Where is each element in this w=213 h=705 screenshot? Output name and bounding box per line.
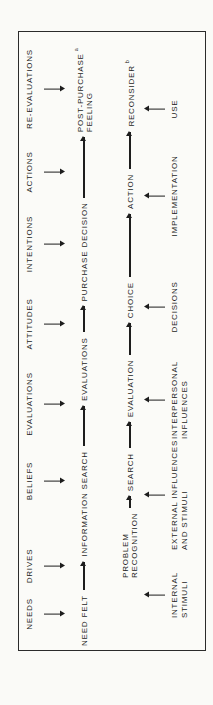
stage-label: DRIVES: [25, 549, 34, 584]
down-arrow-icon: [44, 88, 61, 89]
influence-label: IMPLEMENTATION: [170, 155, 179, 236]
stage-label: RE-EVALUATIONS: [25, 49, 34, 129]
flow-stage: RECONSIDERb: [125, 60, 136, 127]
right-arrow-icon: [83, 406, 84, 446]
up-arrow-icon: [148, 306, 165, 307]
influence-label-line: INFLUENCES: [180, 361, 190, 439]
stage-label-text: ACTIONS: [25, 151, 34, 192]
flow-stage: POST-PURCHASEaFEELING: [73, 48, 95, 132]
flow-stage-text: EVALUATIONS: [80, 337, 89, 401]
right-arrow-icon: [129, 214, 130, 277]
flow-stage-line: FEELING: [85, 48, 95, 132]
up-arrow-icon: [148, 399, 165, 400]
flow-stage: CHOICE: [126, 282, 135, 318]
flow-stage-text: INFORMATION SEARCH: [80, 451, 89, 556]
flow-stage-text: EVALUATION: [126, 360, 135, 418]
flow-stage-text: ACTION: [126, 174, 135, 209]
flow-stage: PURCHASE DECISION: [80, 203, 89, 302]
up-arrow-icon: [148, 195, 165, 196]
flow-stage-text: POST-PURCHASE: [76, 53, 85, 132]
stage-label-text: BELIEFS: [25, 462, 34, 501]
influence-label: DECISIONS: [170, 281, 179, 332]
influence-label-line: STIMULI: [180, 572, 190, 618]
stage-label: EVALUATIONS: [25, 372, 34, 436]
flow-stage: ACTION: [126, 174, 135, 209]
flow-stage: EVALUATIONS: [80, 337, 89, 401]
flow-stage-text: PURCHASE DECISION: [80, 203, 89, 302]
stage-label: INTENTIONS: [25, 216, 34, 272]
right-arrow-icon: [129, 422, 130, 448]
stage-label-text: DRIVES: [25, 549, 34, 584]
right-arrow-icon: [129, 132, 130, 169]
right-arrow-icon: [83, 562, 84, 591]
flow-stage-text: SEARCH: [126, 453, 135, 491]
influence-label-line: AND STIMULI: [180, 440, 190, 550]
down-arrow-icon: [44, 613, 61, 614]
flow-stage: PROBLEMRECOGNITION: [121, 513, 140, 578]
influence-label-text: INTERNAL: [170, 572, 179, 618]
influence-label: INTERNALSTIMULI: [170, 572, 189, 618]
right-arrow-icon: [83, 306, 84, 332]
up-arrow-icon: [148, 494, 165, 495]
flow-stage-line: PROBLEM: [121, 513, 131, 578]
influence-label-text: STIMULI: [180, 581, 189, 618]
flow-stage-text: RECOGNITION: [130, 513, 139, 578]
footnote-marker: a: [73, 48, 79, 51]
down-arrow-icon: [44, 403, 61, 404]
right-arrow-icon: [129, 496, 130, 508]
right-arrow-icon: [83, 137, 84, 197]
influence-label: EXTERNAL INFLUENCESAND STIMULI: [170, 440, 189, 550]
flow-row-decision-process: PROBLEMRECOGNITIONSEARCHEVALUATIONCHOICE…: [115, 60, 145, 578]
influence-label-text: INFLUENCES: [180, 380, 189, 439]
stage-label: NEEDS: [25, 598, 34, 630]
footnote-marker: b: [124, 60, 130, 63]
influence-label-line: INTERPERSONAL: [170, 361, 180, 439]
influence-label: USE: [170, 100, 179, 119]
right-arrow-icon: [129, 323, 130, 355]
down-arrow-icon: [44, 171, 61, 172]
flow-stage: NEED FELT: [80, 595, 89, 646]
flow-stage-text: RECONSIDER: [126, 65, 135, 126]
influence-label-text: IMPLEMENTATION: [170, 155, 179, 236]
influence-label-text: INTERPERSONAL: [170, 361, 179, 439]
influence-label: INTERPERSONALINFLUENCES: [170, 361, 189, 439]
stage-label: BELIEFS: [25, 462, 34, 501]
down-arrow-icon: [44, 565, 61, 566]
stage-label-text: NEEDS: [25, 598, 34, 630]
influence-label-text: AND STIMULI: [180, 491, 189, 550]
influence-label-line: EXTERNAL INFLUENCES: [170, 440, 180, 550]
flow-stage: EVALUATION: [126, 360, 135, 418]
flow-stage-line: POST-PURCHASEa: [73, 48, 85, 132]
down-arrow-icon: [44, 480, 61, 481]
stage-label-text: RE-EVALUATIONS: [25, 49, 34, 129]
stage-label-text: INTENTIONS: [25, 216, 34, 272]
influence-label-line: INTERNAL: [170, 572, 180, 618]
stage-label: ATTITUDES: [25, 298, 34, 349]
flow-stage-text: NEED FELT: [80, 595, 89, 646]
up-arrow-icon: [148, 108, 165, 109]
down-arrow-icon: [44, 323, 61, 324]
influence-label-text: DECISIONS: [170, 281, 179, 332]
down-arrow-icon: [44, 243, 61, 244]
stage-label-text: ATTITUDES: [25, 298, 34, 349]
flow-stage-text: FEELING: [85, 92, 94, 132]
up-arrow-icon: [148, 594, 165, 595]
flow-stage-line: RECOGNITION: [130, 513, 140, 578]
diagram-frame: NEEDSDRIVESBELIEFSEVALUATIONSATTITUDESIN…: [18, 31, 206, 651]
flow-stage-text: CHOICE: [126, 282, 135, 318]
stage-label: ACTIONS: [25, 151, 34, 192]
influence-label-text: USE: [170, 100, 179, 119]
flow-stage: INFORMATION SEARCH: [80, 451, 89, 556]
influence-label-text: EXTERNAL INFLUENCES: [170, 440, 179, 550]
flow-row-purchase-process: NEED FELTINFORMATION SEARCHEVALUATIONSPU…: [69, 48, 99, 646]
flow-stage-text: PROBLEM: [121, 533, 130, 578]
flow-stage: SEARCH: [126, 453, 135, 491]
stage-label-text: EVALUATIONS: [25, 372, 34, 436]
